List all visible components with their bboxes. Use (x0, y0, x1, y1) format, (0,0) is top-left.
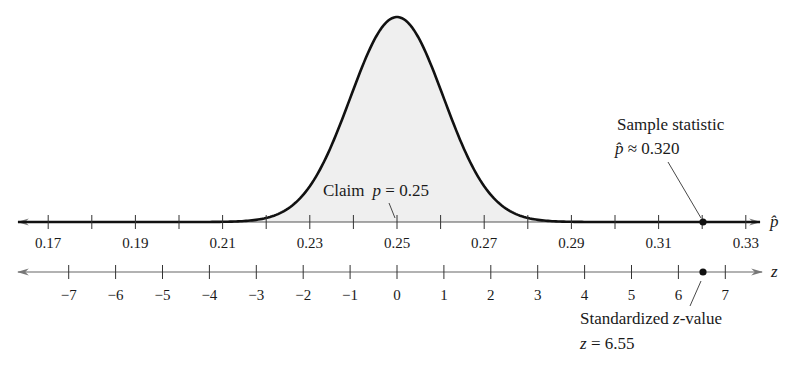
p-hat-tick-label: 0.33 (733, 235, 759, 251)
sample-statistic-point (699, 218, 706, 225)
z-tick-label: 2 (487, 287, 495, 303)
p-hat-tick-label: 0.21 (209, 235, 235, 251)
p-hat-tick-label: 0.23 (297, 235, 323, 251)
z-tick-label: 4 (581, 287, 589, 303)
sample-leader-line (668, 162, 701, 218)
p-hat-tick-label: 0.19 (122, 235, 148, 251)
p-hat-tick-label: 0.25 (384, 235, 410, 251)
z-tick-label: 6 (675, 287, 683, 303)
z-tick-label: 1 (440, 287, 448, 303)
z-tick-label: −5 (155, 287, 171, 303)
sample-statistic-title: Sample statistic (617, 115, 725, 134)
z-value-text: z = 6.55 (579, 334, 634, 353)
sample-statistic-value: p̂ ≈ 0.320 (614, 139, 680, 158)
z-axis-label: z (770, 262, 778, 281)
p-hat-tick-label: 0.31 (645, 235, 671, 251)
z-tick-label: 0 (393, 287, 401, 303)
claim-label: Claimp = 0.25 (323, 181, 429, 200)
p-hat-axis: 0.170.190.210.230.250.270.290.310.33 (35, 215, 759, 251)
z-leader-line (690, 281, 701, 306)
z-tick-label: −6 (108, 287, 124, 303)
p-hat-axis-label: p̂ (769, 212, 779, 231)
z-tick-label: 5 (628, 287, 636, 303)
z-tick-label: −1 (342, 287, 358, 303)
z-axis-ticks: −7−6−5−4−3−2−101234567 (61, 265, 730, 303)
z-value-point (699, 268, 706, 275)
p-hat-tick-label: 0.29 (558, 235, 584, 251)
z-value-title: Standardized z-value (580, 309, 722, 328)
z-tick-label: −4 (201, 287, 217, 303)
z-tick-label: 3 (534, 287, 542, 303)
z-tick-label: 7 (722, 287, 730, 303)
p-hat-tick-label: 0.27 (471, 235, 498, 251)
z-tick-label: −2 (295, 287, 311, 303)
z-tick-label: −3 (248, 287, 264, 303)
normal-distribution-diagram: 0.170.190.210.230.250.270.290.310.33 p̂ … (0, 0, 801, 374)
p-hat-tick-label: 0.17 (35, 235, 62, 251)
z-tick-label: −7 (61, 287, 77, 303)
